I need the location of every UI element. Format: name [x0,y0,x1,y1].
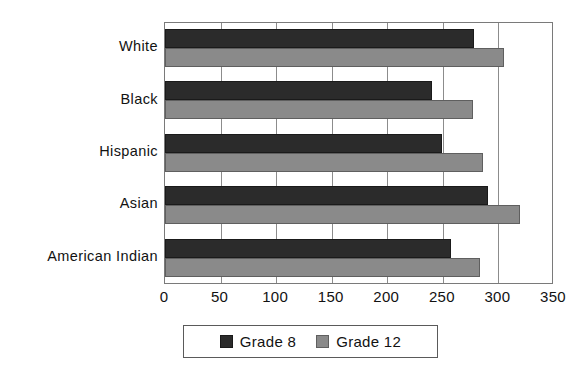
y-axis-label-white: White [0,38,158,54]
bar-asian-grade-8 [165,186,488,205]
x-axis-tick-50: 50 [211,288,228,305]
x-axis-tick-100: 100 [262,288,288,305]
plot-area [164,22,553,284]
chart-title-cropped [0,0,582,4]
bar-asian-grade-12 [165,205,520,224]
bar-black-grade-12 [165,100,473,119]
bar-hispanic-grade-8 [165,134,442,153]
bar-group-hispanic [165,128,552,180]
bar-american-indian-grade-12 [165,258,480,277]
chart-legend: Grade 8Grade 12 [183,325,438,358]
x-axis-tick-200: 200 [373,288,399,305]
bar-black-grade-8 [165,81,432,100]
y-axis-label-american-indian: American Indian [0,248,158,264]
bar-white-grade-12 [165,48,504,67]
legend-entry-grade-12[interactable]: Grade 12 [316,333,401,350]
bar-group-asian [165,180,552,232]
x-axis-tick-300: 300 [484,288,510,305]
y-axis-label-black: Black [0,91,158,107]
x-axis-tick-350: 350 [540,288,566,305]
legend-label-grade-8: Grade 8 [240,333,296,350]
x-axis-tick-150: 150 [318,288,344,305]
legend-entry-grade-8[interactable]: Grade 8 [220,333,296,350]
bar-white-grade-8 [165,29,474,48]
bar-american-indian-grade-8 [165,239,451,258]
bar-hispanic-grade-12 [165,153,483,172]
legend-label-grade-12: Grade 12 [336,333,401,350]
x-axis-tick-labels: 050100150200250300350 [0,288,582,310]
bar-group-american-indian [165,233,552,285]
x-axis-tick-0: 0 [160,288,169,305]
x-axis-tick-250: 250 [429,288,455,305]
y-axis-label-hispanic: Hispanic [0,143,158,159]
bar-group-black [165,75,552,127]
legend-swatch-grade-8-icon [220,335,233,348]
bar-chart-figure: WhiteBlackHispanicAsianAmerican Indian 0… [0,0,582,377]
y-axis-label-asian: Asian [0,195,158,211]
y-axis-category-labels: WhiteBlackHispanicAsianAmerican Indian [0,22,158,284]
bar-group-white [165,23,552,75]
legend-swatch-grade-12-icon [316,335,329,348]
